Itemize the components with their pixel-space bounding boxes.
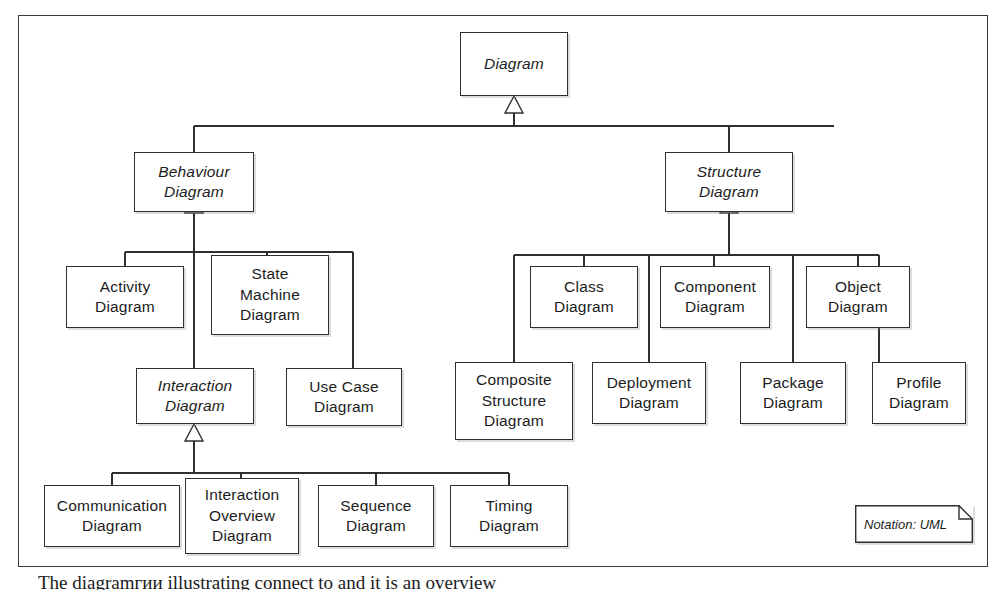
notation-note: Notation: UML: [855, 505, 973, 543]
uml-diagram-taxonomy-page: Diagram Behaviour Diagram Structure Diag…: [0, 0, 1005, 590]
node-timing-diagram[interactable]: Timing Diagram: [450, 485, 568, 547]
node-class-diagram-label: Class Diagram: [550, 277, 618, 318]
node-object-diagram-label: Object Diagram: [824, 277, 892, 318]
node-composite-structure-diagram[interactable]: Composite Structure Diagram: [455, 362, 573, 440]
node-behaviour-diagram-label: Behaviour Diagram: [154, 162, 234, 203]
notation-note-label: Notation: UML: [855, 517, 947, 532]
node-diagram-label: Diagram: [480, 54, 548, 74]
node-interaction-overview-diagram[interactable]: Interaction Overview Diagram: [185, 478, 299, 554]
node-activity-diagram[interactable]: Activity Diagram: [66, 266, 184, 328]
node-deployment-diagram-label: Deployment Diagram: [603, 373, 696, 414]
node-composite-structure-diagram-label: Composite Structure Diagram: [472, 370, 556, 431]
node-object-diagram[interactable]: Object Diagram: [806, 266, 910, 328]
node-package-diagram[interactable]: Package Diagram: [740, 362, 846, 424]
node-state-machine-diagram[interactable]: State Machine Diagram: [211, 255, 329, 335]
node-class-diagram[interactable]: Class Diagram: [530, 266, 638, 328]
node-activity-diagram-label: Activity Diagram: [91, 277, 159, 318]
figure-caption: The diagramгии illustrating connect to a…: [38, 572, 978, 590]
node-profile-diagram-label: Profile Diagram: [885, 373, 953, 414]
node-component-diagram[interactable]: Component Diagram: [660, 266, 770, 328]
node-structure-diagram-label: Structure Diagram: [693, 162, 766, 203]
node-component-diagram-label: Component Diagram: [670, 277, 760, 318]
node-interaction-overview-diagram-label: Interaction Overview Diagram: [201, 485, 284, 546]
node-communication-diagram[interactable]: Communication Diagram: [44, 485, 180, 547]
node-behaviour-diagram[interactable]: Behaviour Diagram: [134, 152, 254, 212]
node-profile-diagram[interactable]: Profile Diagram: [872, 362, 966, 424]
node-package-diagram-label: Package Diagram: [758, 373, 828, 414]
node-structure-diagram[interactable]: Structure Diagram: [665, 152, 793, 212]
node-interaction-diagram-label: Interaction Diagram: [154, 376, 237, 417]
node-communication-diagram-label: Communication Diagram: [53, 496, 171, 537]
node-deployment-diagram[interactable]: Deployment Diagram: [592, 362, 706, 424]
node-use-case-diagram-label: Use Case Diagram: [305, 377, 383, 418]
node-sequence-diagram[interactable]: Sequence Diagram: [318, 485, 434, 547]
node-interaction-diagram[interactable]: Interaction Diagram: [136, 368, 254, 424]
node-diagram[interactable]: Diagram: [460, 32, 568, 96]
node-use-case-diagram[interactable]: Use Case Diagram: [286, 368, 402, 426]
node-sequence-diagram-label: Sequence Diagram: [336, 496, 415, 537]
node-timing-diagram-label: Timing Diagram: [475, 496, 543, 537]
node-state-machine-diagram-label: State Machine Diagram: [236, 264, 304, 325]
